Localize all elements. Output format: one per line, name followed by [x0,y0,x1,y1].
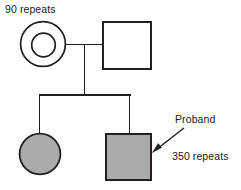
proband-arrow-head [153,144,162,153]
proband-label: Proband [175,113,215,125]
individual-generation1-father [103,22,151,69]
proband-repeats-label: 350 repeats [172,150,229,162]
proband-arrow-shaft [157,128,184,149]
individual-generation2-daughter [20,134,61,175]
mother-inner-circle [32,33,56,57]
individual-generation2-son-proband [106,134,151,180]
maternal-repeats-label: 90 repeats [5,3,56,15]
individual-generation1-mother [21,22,66,67]
proband-arrow [153,128,185,153]
pedigree-diagram: 90 repeats Proband 350 repeats [0,0,241,190]
